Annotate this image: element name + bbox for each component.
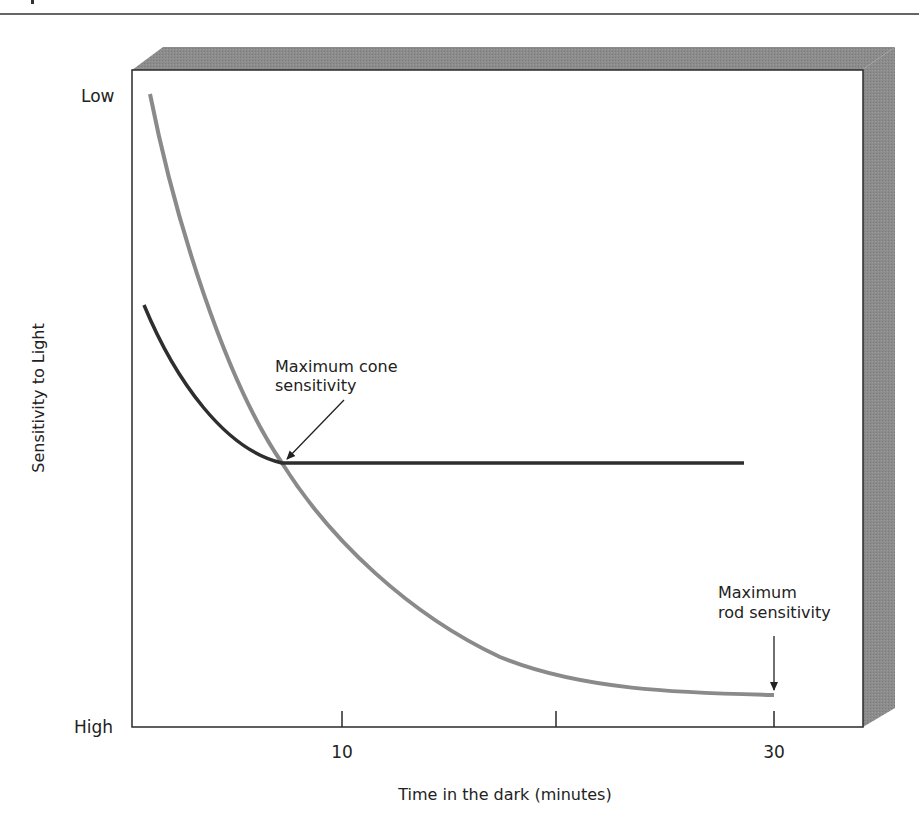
annotation-max-rod-line1: Maximum [718,583,797,602]
x-tick-label-30: 30 [763,742,785,762]
frame-shadow-top [132,47,895,70]
x-axis-title: Time in the dark (minutes) [397,785,611,804]
y-axis-title: Sensitivity to Light [29,323,48,472]
x-tick-label-10: 10 [331,742,353,762]
annotation-max-cone-line2: sensitivity [275,376,356,395]
y-label-high: High [74,717,113,737]
chart-figure: 10 30 Low High Sensitivity to Light Time… [0,0,919,814]
y-label-low: Low [81,86,115,106]
annotation-max-cone-line1: Maximum cone [275,357,398,376]
plot-frame [132,70,863,727]
frame-shadow-right [862,47,895,727]
annotation-max-rod-line2: rod sensitivity [718,603,831,622]
header-text-fragment [31,0,34,4]
